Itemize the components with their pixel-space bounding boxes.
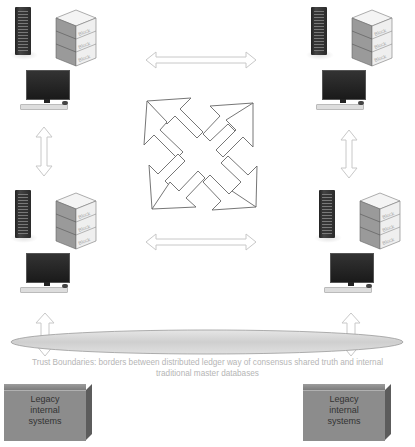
vertical-double-arrow-left: [36, 127, 52, 176]
label-line: systems: [4, 416, 86, 427]
legacy-system-left: Legacy internal systems: [4, 384, 92, 436]
label-line: Legacy: [4, 394, 86, 405]
label-line: systems: [303, 416, 385, 427]
legacy-system-right: Legacy internal systems: [303, 384, 391, 436]
trust-boundary-caption: Trust Boundaries: borders between distri…: [0, 357, 415, 379]
horizontal-double-arrow-top: [146, 52, 256, 68]
legacy-system-label: Legacy internal systems: [4, 394, 86, 427]
trust-boundary-ellipse: [11, 330, 403, 354]
label-line: internal: [303, 405, 385, 416]
legacy-box-side: [385, 384, 391, 440]
connectors-layer: [0, 0, 415, 447]
caption-line-1: Trust Boundaries: borders between distri…: [0, 357, 415, 368]
label-line: internal: [4, 405, 86, 416]
caption-line-2: traditional master databases: [0, 368, 415, 379]
label-line: Legacy: [303, 394, 385, 405]
four-way-arrow-icon: [144, 98, 257, 210]
legacy-box-side: [86, 384, 92, 440]
vertical-double-arrow-right: [341, 130, 357, 178]
horizontal-double-arrow-bottom: [146, 234, 256, 250]
legacy-system-label: Legacy internal systems: [303, 394, 385, 427]
